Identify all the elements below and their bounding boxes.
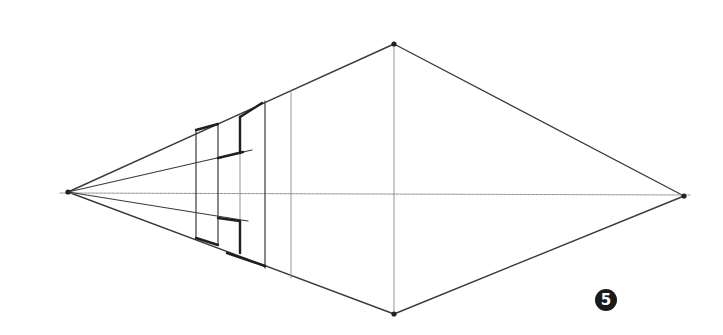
box-edge [218, 218, 240, 221]
box-edge [227, 253, 265, 266]
guide-lines [60, 44, 690, 314]
right-vp-point [681, 193, 686, 198]
box-edge [218, 152, 243, 158]
vertical-lines [196, 90, 291, 278]
box-edges [196, 103, 265, 266]
sketch-canvas [0, 0, 723, 335]
box-edge [240, 103, 262, 117]
top-point [391, 41, 396, 46]
left-vp-point [65, 189, 70, 194]
vanishing-points [65, 41, 686, 316]
diamond-edge [394, 196, 684, 314]
diamond-outline [68, 44, 684, 314]
perspective-diagram: 5 [0, 0, 723, 335]
bottom-point [391, 311, 396, 316]
diamond-edge [68, 192, 394, 314]
diamond-edge [68, 44, 394, 192]
step-number-badge: 5 [595, 289, 617, 311]
perspective-ray [68, 192, 248, 221]
diamond-edge [394, 44, 684, 196]
horizon-line [60, 193, 690, 195]
